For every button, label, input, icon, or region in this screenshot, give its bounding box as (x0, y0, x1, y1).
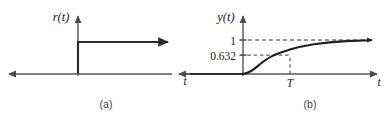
panel-b-response-curve (243, 40, 371, 74)
panel-b-y-axis-label: y(t) (215, 10, 234, 24)
panel-b-time-constant-label: T (287, 77, 295, 89)
panel-a-caption: (a) (100, 98, 113, 110)
panel-a-group: r(t) t (a) (9, 10, 187, 110)
figure-svg: r(t) t (a) y(t) (0, 0, 388, 121)
panel-b-caption: (b) (304, 98, 317, 110)
figure-container: r(t) t (a) y(t) (0, 0, 388, 121)
panel-a-step-signal (78, 42, 168, 74)
panel-b-time-constant-value-label: 0.632 (210, 50, 236, 62)
panel-a-x-axis-label: t (183, 75, 187, 87)
panel-b-x-axis-label: t (377, 76, 381, 88)
panel-b-group: y(t) t 1 0.632 T (b) (179, 10, 381, 110)
panel-a-y-axis-label: r(t) (53, 10, 70, 24)
panel-b-steady-state-label: 1 (230, 35, 236, 47)
